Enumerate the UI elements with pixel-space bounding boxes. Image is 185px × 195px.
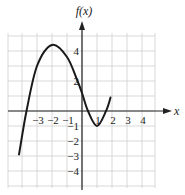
x-axis-arrow-icon: [163, 108, 172, 114]
y-axis-title: f(x): [76, 4, 93, 18]
x-tick-label: 3: [125, 114, 131, 126]
y-tick-label: −3: [67, 150, 79, 162]
y-tick-label: 4: [74, 45, 80, 57]
x-tick-label: 4: [140, 114, 146, 126]
x-tick-label: −2: [47, 114, 59, 126]
y-tick-label: −2: [67, 135, 79, 147]
y-axis-arrow-icon: [79, 21, 85, 30]
y-tick-label: −1: [67, 120, 79, 132]
y-tick-label: −4: [67, 165, 79, 177]
x-tick-label: −3: [32, 114, 44, 126]
x-tick-label: 2: [110, 114, 116, 126]
function-graph: f(x) x −3−2−11234 42−1−2−3−4: [0, 0, 185, 195]
x-axis-title: x: [173, 104, 180, 118]
